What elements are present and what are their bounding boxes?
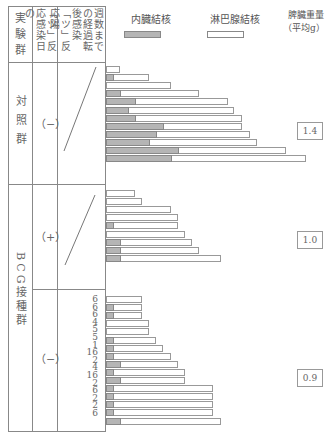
inner-organ-segment xyxy=(106,107,129,114)
inner-organ-segment xyxy=(106,369,114,376)
lesion-bar xyxy=(106,239,192,246)
bcg-negative-weight-box: 0.9 xyxy=(297,369,323,387)
lesion-bar xyxy=(106,312,142,319)
inner-organ-segment xyxy=(106,239,121,246)
inner-organ-segment xyxy=(106,353,114,360)
lesion-bar xyxy=(106,139,257,146)
legend-lymph-label: 淋巴腺結核 xyxy=(210,11,260,26)
lesion-bar xyxy=(106,74,149,81)
inner-organ-segment xyxy=(106,304,114,311)
lesion-bar xyxy=(106,369,185,376)
lesion-bar xyxy=(106,296,142,303)
lesion-bar xyxy=(106,255,221,262)
lesion-bar xyxy=(106,90,199,97)
lesion-bar xyxy=(106,418,221,425)
lesion-bar xyxy=(106,147,286,154)
inner-organ-segment xyxy=(106,90,121,97)
bcg-negative-reaction: （−） xyxy=(35,350,66,366)
lesion-bar xyxy=(106,198,142,205)
inner-organ-segment xyxy=(106,123,164,130)
lesion-bar xyxy=(106,82,171,89)
lesion-bar xyxy=(106,409,213,416)
bcg-positive-weight-box: 1.0 xyxy=(297,231,323,249)
inner-organ-segment xyxy=(106,131,157,138)
header-weeks: 週数までの経過転後感染「ツ」反応陽 xyxy=(59,8,103,60)
inner-organ-segment xyxy=(106,147,179,154)
table-divider xyxy=(32,6,33,432)
inner-organ-segment xyxy=(106,222,114,229)
inner-organ-segment xyxy=(106,385,114,392)
inner-organ-segment xyxy=(106,312,114,319)
weight-label: 脾臓重量 xyxy=(288,8,324,21)
subgroup-divider xyxy=(32,289,106,290)
control-group-label: 対照群 xyxy=(14,95,27,152)
lesion-bar xyxy=(106,66,120,73)
lesion-bar xyxy=(106,328,149,335)
inner-organ-segment xyxy=(106,337,114,344)
inner-organ-segment xyxy=(106,155,172,162)
header-group: 実験群 xyxy=(13,12,26,60)
lesion-bar xyxy=(106,115,242,122)
lesion-bar xyxy=(106,123,242,130)
inner-organ-segment xyxy=(106,401,114,408)
legend-lymph-swatch xyxy=(207,31,244,38)
inner-organ-segment xyxy=(106,345,114,352)
lesion-bar xyxy=(106,401,213,408)
control-weight-box: 1.4 xyxy=(297,122,323,140)
inner-organ-segment xyxy=(106,115,136,122)
legend-inner-swatch xyxy=(124,31,161,38)
inner-organ-segment xyxy=(106,409,114,416)
inner-organ-segment xyxy=(106,393,114,400)
inner-organ-segment xyxy=(106,255,121,262)
lesion-bar xyxy=(106,131,250,138)
bcg-positive-diagonal-line xyxy=(58,185,106,285)
bcg-group-label: BCG接種群 xyxy=(14,252,27,329)
lesion-bar xyxy=(106,206,171,213)
lesion-bar xyxy=(106,304,142,311)
lesion-bar xyxy=(106,190,135,197)
inner-organ-segment xyxy=(106,377,121,384)
lesion-bar xyxy=(106,393,213,400)
inner-organ-segment xyxy=(106,418,121,425)
lesion-bar xyxy=(106,361,178,368)
lesion-bar xyxy=(106,231,185,238)
lesion-bar xyxy=(106,107,234,114)
inner-organ-segment xyxy=(106,139,150,146)
lesion-bar xyxy=(106,345,163,352)
week-numbers-column: 666455116241626226 xyxy=(80,296,98,418)
control-diagonal-line xyxy=(58,63,106,183)
week-number: 6 xyxy=(80,410,98,418)
inner-organ-segment xyxy=(106,98,136,105)
lesion-bar xyxy=(106,222,178,229)
lesion-bar xyxy=(106,320,149,327)
inner-organ-segment xyxy=(106,361,121,368)
weight-unit-label: （平均g） xyxy=(283,21,325,34)
inner-organ-segment xyxy=(106,247,121,254)
lesion-bar xyxy=(106,377,185,384)
lesion-bar xyxy=(106,337,156,344)
lesion-bar xyxy=(106,155,306,162)
lesion-bar xyxy=(106,353,171,360)
legend-inner-label: 内臓結核 xyxy=(131,11,171,26)
inner-organ-segment xyxy=(106,74,114,81)
lesion-bar xyxy=(106,98,228,105)
lesion-bar xyxy=(106,385,213,392)
lesion-bar xyxy=(106,247,199,254)
lesion-bar xyxy=(106,214,178,221)
